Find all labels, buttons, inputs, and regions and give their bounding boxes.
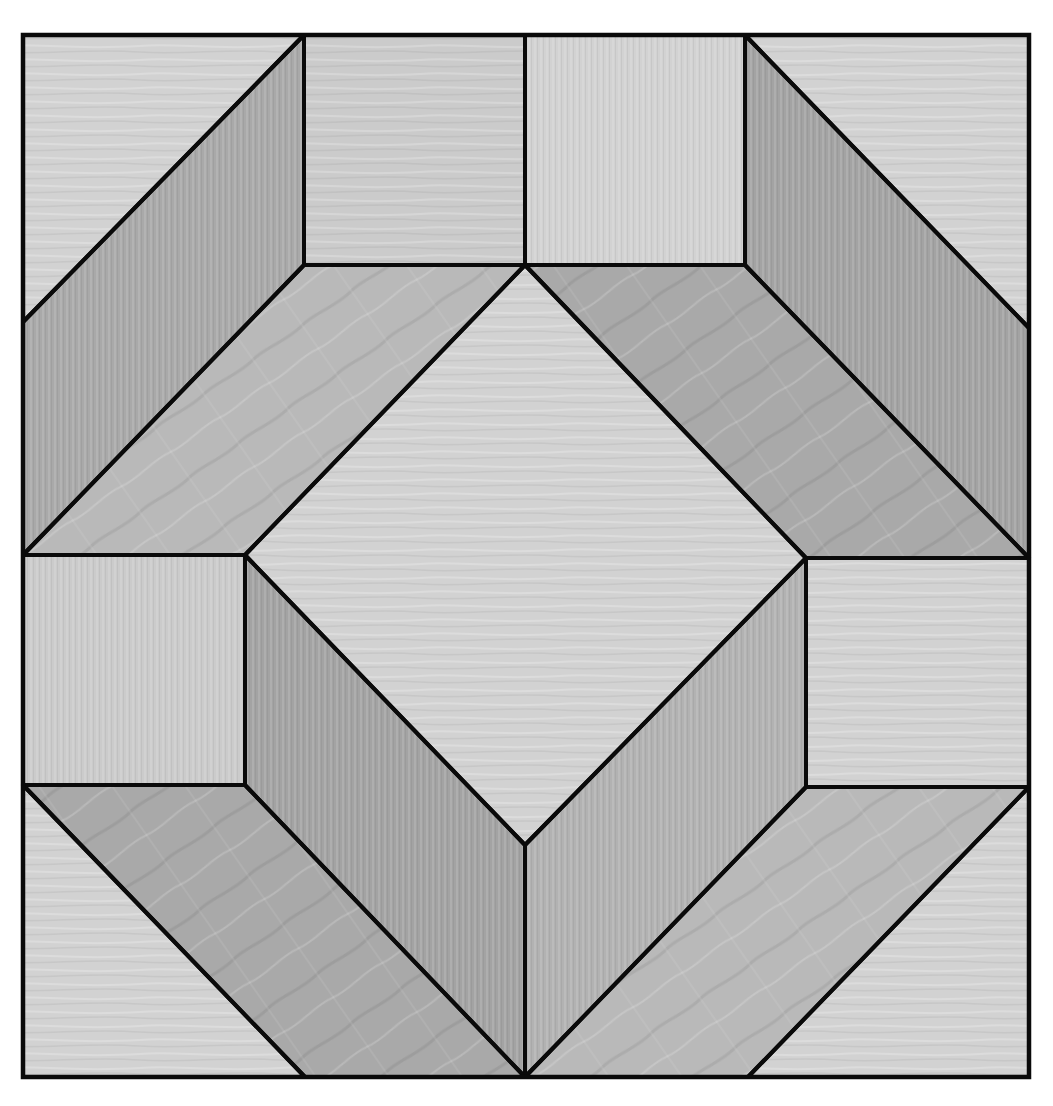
square-top-center-right-texture xyxy=(525,35,745,265)
square-top-center-left-texture xyxy=(304,35,525,265)
quilt-block-diagram xyxy=(0,0,1053,1106)
square-right-middle-texture xyxy=(806,558,1029,787)
square-left-middle-texture xyxy=(23,555,245,785)
